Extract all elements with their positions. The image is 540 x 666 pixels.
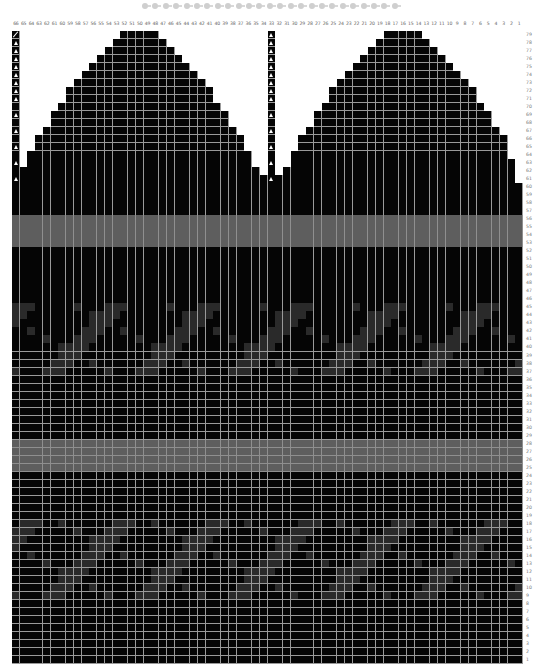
row-label: 37 [526,368,532,376]
column-label: 24 [337,20,345,28]
column-label: 63 [35,20,43,28]
column-label: 2 [508,20,516,28]
column-label: 22 [353,20,361,28]
row-label: 13 [526,560,532,568]
row-label: 7 [526,608,529,616]
column-label: 23 [345,20,353,28]
progress-dot [319,3,325,9]
column-label: 53 [113,20,121,28]
row-label: 15 [526,544,532,552]
row-label: 16 [526,536,532,544]
progress-dots [142,2,398,10]
column-label: 26 [322,20,330,28]
column-label: 46 [167,20,175,28]
row-label: 6 [526,616,529,624]
row-label: 72 [526,87,532,95]
row-label: 36 [526,376,532,384]
row-label: 73 [526,79,532,87]
row-label: 18 [526,520,532,528]
column-label: 49 [144,20,152,28]
column-label: 15 [407,20,415,28]
column-label: 44 [182,20,190,28]
column-label: 39 [221,20,229,28]
row-label: 12 [526,568,532,576]
column-label: 12 [430,20,438,28]
row-label: 21 [526,496,532,504]
progress-dot [194,3,200,9]
row-label: 64 [526,151,532,159]
row-label: 9 [526,592,529,600]
progress-dot [142,3,148,9]
column-label: 6 [477,20,485,28]
column-label: 30 [291,20,299,28]
row-label: 26 [526,456,532,464]
row-label: 32 [526,408,532,416]
row-label: 2 [526,648,529,656]
progress-dot [277,3,283,9]
column-label: 34 [260,20,268,28]
row-label: 1 [526,656,529,664]
progress-dot [236,3,242,9]
row-label: 29 [526,432,532,440]
column-label: 41 [206,20,214,28]
row-label: 28 [526,440,532,448]
progress-dot [267,3,273,9]
row-label: 39 [526,352,532,360]
row-label: 50 [526,263,532,271]
row-label: 48 [526,279,532,287]
column-label: 40 [213,20,221,28]
progress-dot [204,3,210,9]
column-label: 62 [43,20,51,28]
progress-dot [152,3,158,9]
column-label: 7 [469,20,477,28]
row-label: 10 [526,584,532,592]
column-label: 43 [190,20,198,28]
chart-cell[interactable] [515,656,523,664]
column-label: 5 [484,20,492,28]
row-label: 54 [526,231,532,239]
row-label: 51 [526,255,532,263]
column-label: 31 [283,20,291,28]
row-label: 23 [526,480,532,488]
row-label: 5 [526,624,529,632]
row-label: 70 [526,103,532,111]
row-label: 53 [526,239,532,247]
row-label: 33 [526,400,532,408]
column-label: 36 [244,20,252,28]
column-label: 47 [159,20,167,28]
row-label: 11 [526,576,532,584]
row-label: 45 [526,303,532,311]
row-label: 55 [526,223,532,231]
column-label: 16 [399,20,407,28]
row-label: 75 [526,63,532,71]
column-label: 66 [12,20,20,28]
progress-dot [288,3,294,9]
row-label: 78 [526,39,532,47]
column-label: 60 [58,20,66,28]
column-label: 25 [329,20,337,28]
row-label: 38 [526,360,532,368]
row-label: 76 [526,55,532,63]
row-label: 58 [526,199,532,207]
column-label: 19 [376,20,384,28]
knitting-chart-grid[interactable] [12,31,523,664]
column-label: 42 [198,20,206,28]
column-label: 48 [151,20,159,28]
row-label: 17 [526,528,532,536]
column-label: 57 [82,20,90,28]
row-label: 46 [526,295,532,303]
column-label: 55 [97,20,105,28]
column-label: 33 [268,20,276,28]
column-label: 50 [136,20,144,28]
row-label: 77 [526,47,532,55]
row-label: 25 [526,464,532,472]
progress-dot [392,3,398,9]
column-label: 11 [438,20,446,28]
row-label: 62 [526,167,532,175]
row-label: 67 [526,127,532,135]
row-label: 27 [526,448,532,456]
row-label: 74 [526,71,532,79]
row-label: 66 [526,135,532,143]
column-label: 4 [492,20,500,28]
progress-dot [184,3,190,9]
